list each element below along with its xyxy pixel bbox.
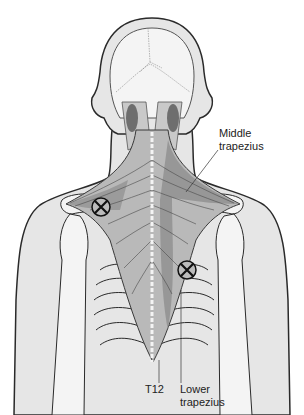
trigger-point-middle-trapezius [92,198,110,216]
label-lower-trapezius: Lower trapezius [180,383,225,409]
label-t12: T12 [145,383,164,396]
trapezius-illustration [0,0,304,415]
label-line: trapezius [180,396,225,409]
trigger-point-lower-trapezius [178,261,196,279]
label-line: Lower [180,383,225,396]
label-middle-trapezius: Middle trapezius [219,127,264,153]
label-line: trapezius [219,140,264,153]
anatomy-figure: Middle trapezius T12 Lower trapezius [0,0,304,415]
label-line: Middle [219,127,264,140]
